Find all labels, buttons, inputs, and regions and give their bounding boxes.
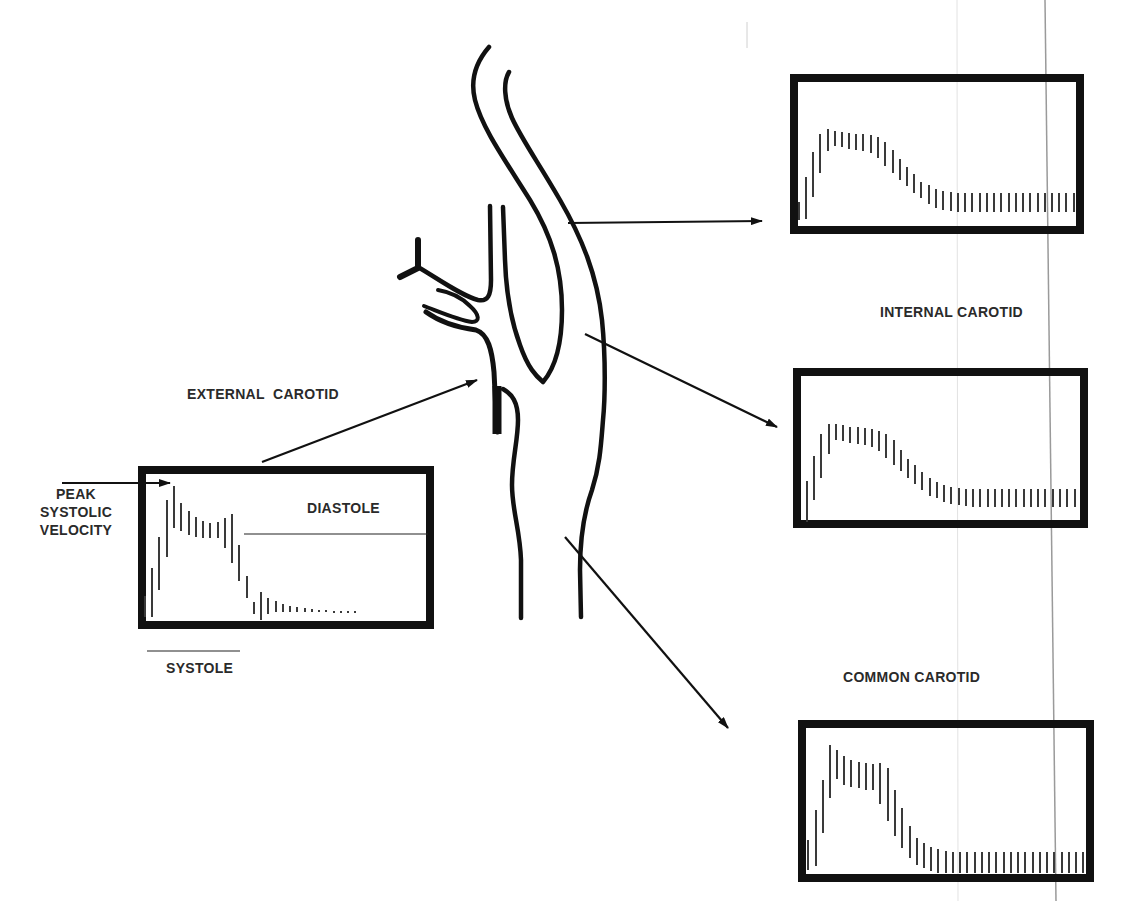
external-carotid-wall	[418, 206, 491, 300]
common-carotid-waveform	[802, 724, 1090, 878]
internal-carotid-left-wall	[473, 47, 562, 382]
waveform-frame	[142, 470, 430, 625]
common-carotid-label: COMMON CAROTID	[843, 669, 980, 685]
arrows	[62, 221, 777, 728]
systole-label: SYSTOLE	[166, 660, 233, 676]
internal-carotid-waveform-top	[794, 78, 1080, 230]
diagram-canvas	[0, 0, 1128, 901]
internal-carotid-waveform-middle	[797, 372, 1084, 524]
waveform-frame	[797, 372, 1084, 524]
arrow-to-common	[565, 537, 728, 728]
diastole-label: DIASTOLE	[307, 500, 380, 516]
arrow-to-internal-middle	[585, 334, 777, 427]
peak-label-line1: PEAK	[28, 485, 124, 503]
carotid-doppler-diagram: EXTERNAL CAROTID INTERNAL CAROTID COMMON…	[0, 0, 1128, 901]
arrow-to-internal-top	[568, 221, 762, 223]
external-carotid-label: EXTERNAL CAROTID	[187, 386, 339, 402]
peak-systolic-velocity-label: PEAK SYSTOLIC VELOCITY	[28, 485, 124, 539]
waveform-panels	[142, 78, 1090, 878]
common-carotid-left-upper-wall	[426, 312, 497, 432]
common-carotid-left-wall	[503, 389, 521, 618]
internal-carotid-label: INTERNAL CAROTID	[880, 304, 1023, 320]
external-carotid-waveform	[142, 470, 430, 625]
external-carotid-branch-stub	[400, 240, 418, 277]
scan-line	[1045, 0, 1056, 901]
peak-label-line3: VELOCITY	[28, 521, 124, 539]
peak-label-line2: SYSTOLIC	[28, 503, 124, 521]
scan-line-faint	[957, 0, 958, 901]
